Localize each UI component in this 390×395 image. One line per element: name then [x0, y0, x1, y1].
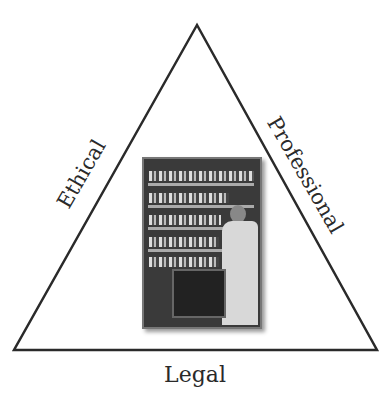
label-legal: Legal: [0, 362, 390, 387]
shelf: [148, 183, 254, 186]
shelf: [148, 227, 226, 230]
shelf-bottles: [149, 237, 219, 247]
pharmacist-coat: [222, 221, 258, 325]
shelf-bottles: [149, 215, 221, 225]
shelf-bottles: [149, 171, 254, 181]
shelf: [148, 249, 224, 252]
medicine-cart: [172, 269, 226, 318]
pharmacist-photo: [142, 157, 262, 329]
shelf-bottles: [149, 193, 229, 203]
shelf-bottles: [149, 257, 219, 267]
